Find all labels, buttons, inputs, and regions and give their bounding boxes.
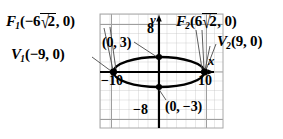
tick-y-positive: 8 [147, 22, 154, 36]
tick-y-negative: −8 [133, 103, 148, 117]
label-covertex-bottom: (0, −3) [165, 100, 202, 114]
label-vertex-right: V2(9, 0) [217, 34, 262, 51]
label-vertex-left: V1(−9, 0) [11, 47, 65, 64]
tick-x-negative: −10 [101, 74, 123, 88]
point-covertex-bottom [156, 84, 162, 90]
x-axis-label: x [208, 54, 214, 67]
tick-x-positive: 10 [198, 74, 212, 88]
label-focus-right: F2(6√2, 0) [176, 13, 237, 31]
point-covertex-top [156, 54, 162, 60]
figure-canvas: F1(−6√2, 0) F2(6√2, 0) V1(−9, 0) V2(9, 0… [0, 0, 283, 139]
label-focus-left: F1(−6√2, 0) [6, 13, 75, 31]
label-covertex-top: (0, 3) [102, 36, 131, 50]
